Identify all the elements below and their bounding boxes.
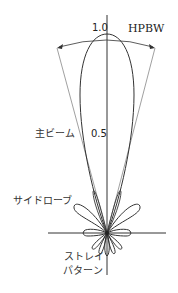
- main-beam-label: 主ビーム: [35, 128, 75, 139]
- hpbw-right-arrowhead: [149, 44, 155, 49]
- radiation-pattern-diagram: 1.0 HPBW 主ビーム 0.5 サイドローブ ストレイ パターン: [0, 0, 178, 293]
- side-lobe-label: サイドローブ: [13, 194, 72, 206]
- stray-pattern-label-line1: ストレイ: [64, 251, 104, 262]
- peak-value-label: 1.0: [92, 22, 108, 33]
- hpbw-label: HPBW: [128, 22, 165, 35]
- origin-point: [105, 231, 109, 235]
- hpbw-arc: [59, 40, 153, 47]
- stray-pattern-label-line2: パターン: [63, 265, 103, 276]
- half-value-label: 0.5: [91, 128, 107, 139]
- hpbw-left-arrowhead: [57, 44, 63, 49]
